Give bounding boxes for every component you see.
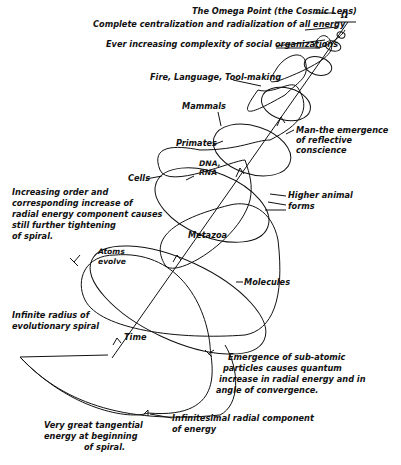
label-tangential-1: Very great tangential [44,420,143,430]
label-infinitesimal-2: of energy [172,424,217,434]
label-molecules: Molecules [244,277,290,287]
evolutionary-spiral-diagram: Ω The Omega Point (the Cosmic Lens) Comp… [0,0,401,465]
label-infinite-radius-1: Infinite radius of [12,310,91,320]
label-dna: DNA, [199,159,221,168]
label-subatomic-2: particles causes quantum [222,363,342,373]
label-mammals: Mammals [182,101,226,111]
label-subatomic-3: increase in radial energy and in [219,374,366,384]
label-atoms-1: Atoms [97,247,125,256]
label-order-1: Increasing order and [12,187,108,197]
label-omega-point: The Omega Point (the Cosmic Lens) [192,6,357,16]
label-order-2: corresponding increase of [12,198,134,208]
label-tangential-3: of spiral. [84,442,125,452]
label-infinite-radius-2: evolutionary spiral [12,321,99,331]
label-man-2: of reflective [296,135,353,145]
label-cells: Cells [128,173,150,183]
label-tangential-2: energy at beginning [44,431,138,441]
label-fire-language: Fire, Language, Tool-making [150,72,281,82]
label-metazoa: Metazoa [188,230,227,240]
label-order-5: of spiral. [12,231,53,241]
label-higher-animal-2: forms [288,201,315,211]
label-centralization: Complete centralization and radializatio… [93,19,346,29]
label-order-3: radial energy component causes [12,209,163,219]
label-time: Time [124,332,147,342]
label-man-1: Man-the emergence [296,125,389,135]
label-atoms-2: evolve [98,257,126,266]
label-man-3: conscience [296,145,347,155]
label-infinitesimal-1: Infinitesimal radial component [172,413,315,423]
label-order-4: still further tightening [12,220,116,230]
label-rna: RNA [199,168,217,177]
label-subatomic-1: Emergence of sub-atomic [228,352,346,362]
label-subatomic-4: angle of convergence. [216,385,318,395]
label-higher-animal-1: Higher animal [288,190,353,200]
label-primates: Primates [176,138,217,148]
